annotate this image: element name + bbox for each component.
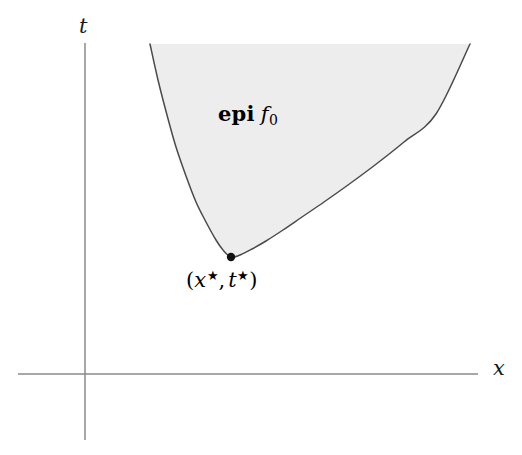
- x-star-superscript-icon: ★: [207, 268, 219, 283]
- x-axis-label: x: [493, 358, 505, 379]
- x-star-variable: x: [194, 268, 206, 292]
- open-paren: (: [186, 268, 194, 292]
- t-star-variable: t: [228, 268, 236, 292]
- figure-canvas: [0, 0, 522, 455]
- function-subscript: 0: [269, 112, 278, 128]
- optimal-point-label: (x★,t★): [186, 269, 257, 291]
- function-name: f: [261, 102, 269, 126]
- epigraph-shaded-region: [150, 44, 470, 257]
- close-paren: ): [249, 268, 257, 292]
- coordinate-comma: ,: [219, 268, 226, 292]
- t-axis-label: t: [79, 16, 87, 37]
- t-star-superscript-icon: ★: [237, 268, 249, 283]
- optimal-point-marker: [227, 253, 235, 261]
- epi-keyword: epi: [218, 101, 255, 126]
- epigraph-region-label: epif0: [218, 103, 278, 127]
- epigraph-figure: t x epif0 (x★,t★): [0, 0, 522, 455]
